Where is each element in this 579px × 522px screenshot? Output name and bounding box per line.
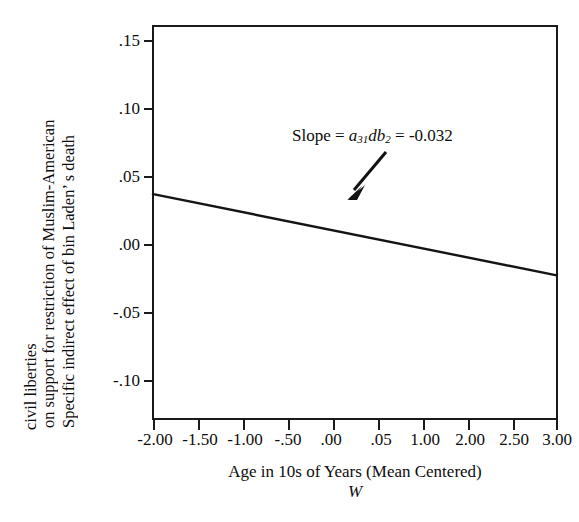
y-tick-label-2: .05 xyxy=(88,168,140,185)
slope-annotation: Slope = a31db2 = -0.032 xyxy=(292,126,453,149)
y-tick-label-0: .15 xyxy=(88,32,140,49)
slope-coefficient-db: db xyxy=(368,126,385,145)
y-tick-3 xyxy=(144,244,153,246)
y-tick-1 xyxy=(144,108,153,110)
regression-line xyxy=(152,194,558,276)
annotation-arrow-icon xyxy=(330,150,400,206)
y-axis-title-line-1: Specific indirect effect of bin Laden’ s… xyxy=(58,18,80,428)
x-tick-1 xyxy=(198,420,200,430)
y-tick-2 xyxy=(144,176,153,178)
x-tick-3 xyxy=(288,420,290,430)
x-tick-6 xyxy=(423,420,425,430)
slope-annotation-equals: = xyxy=(391,126,409,145)
y-tick-label-1: .10 xyxy=(88,100,140,117)
x-axis-title: Age in 10s of Years (Mean Centered) xyxy=(152,461,558,482)
x-tick-9 xyxy=(556,420,558,430)
y-tick-4 xyxy=(144,312,153,314)
plot-canvas xyxy=(152,25,558,420)
y-tick-label-5: -.10 xyxy=(88,372,140,389)
y-tick-label-4: -.05 xyxy=(88,304,140,321)
x-tick-label-9: 3.00 xyxy=(527,430,579,449)
slope-annotation-value: -0.032 xyxy=(409,126,453,145)
page-top-caption xyxy=(0,0,579,2)
x-tick-5 xyxy=(378,420,380,430)
y-tick-0 xyxy=(144,40,153,42)
x-tick-4 xyxy=(333,420,335,430)
x-tick-7 xyxy=(468,420,470,430)
x-tick-8 xyxy=(513,420,515,430)
x-tick-2 xyxy=(243,420,245,430)
y-tick-label-3: .00 xyxy=(88,236,140,253)
y-axis-title-line-3: civil liberties xyxy=(20,150,42,430)
slope-coefficient-a-subscript: 31 xyxy=(357,133,368,145)
x-axis-moderator-label: W xyxy=(152,482,558,502)
y-tick-5 xyxy=(144,380,153,382)
slope-annotation-prefix: Slope = xyxy=(292,126,349,145)
x-tick-0 xyxy=(153,420,155,430)
